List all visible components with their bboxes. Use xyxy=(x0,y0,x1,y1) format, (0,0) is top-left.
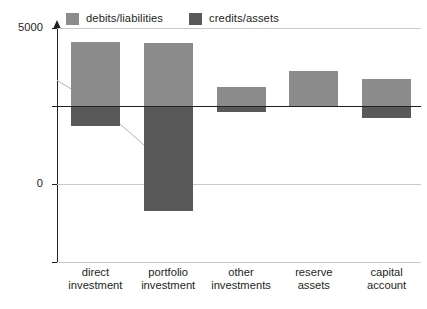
x-axis-label-direct-investment: directinvestment xyxy=(68,266,122,293)
bars-layer xyxy=(57,28,421,262)
legend-item-debits-liabilities: debits/liabilities xyxy=(66,13,163,25)
plot-area: 50000-5000-10 000 xyxy=(57,28,421,262)
y-tick--10000: -10 000 xyxy=(52,262,57,263)
chart-legend: debits/liabilities credits/assets xyxy=(66,13,279,25)
x-axis-label-portfolio-investment: portfolioinvestment xyxy=(141,266,195,293)
x-axis-label-other-investments: otherinvestments xyxy=(211,266,271,293)
legend-item-credits-assets: credits/assets xyxy=(189,13,279,25)
legend-label-credits-assets: credits/assets xyxy=(209,13,279,24)
bar-capital-account-debits-liabilities xyxy=(362,79,411,106)
bar-portfolio-investment-debits-liabilities xyxy=(144,43,193,106)
x-axis-label-capital-account: capitalaccount xyxy=(367,266,406,293)
gridline--10000 xyxy=(57,262,421,263)
bar-chart: debits/liabilities credits/assets 50000-… xyxy=(0,0,427,309)
legend-swatch-credits-assets xyxy=(189,13,202,25)
bar-reserve-assets-debits-liabilities xyxy=(289,71,338,106)
bar-direct-investment-credits-assets xyxy=(71,106,120,126)
zero-baseline xyxy=(57,106,421,107)
legend-swatch-debits-liabilities xyxy=(66,13,79,25)
y-tick-label-5000: 5000 xyxy=(18,22,43,33)
bar-direct-investment-debits-liabilities xyxy=(71,42,120,106)
bar-other-investments-debits-liabilities xyxy=(217,87,266,107)
bar-portfolio-investment-credits-assets xyxy=(144,106,193,211)
bar-capital-account-credits-assets xyxy=(362,106,411,118)
y-tick-label-0: 0 xyxy=(37,178,43,189)
legend-label-debits-liabilities: debits/liabilities xyxy=(86,13,163,24)
x-axis-labels: directinvestmentportfolioinvestmentother… xyxy=(57,266,421,308)
x-axis-label-reserve-assets: reserveassets xyxy=(295,266,332,293)
